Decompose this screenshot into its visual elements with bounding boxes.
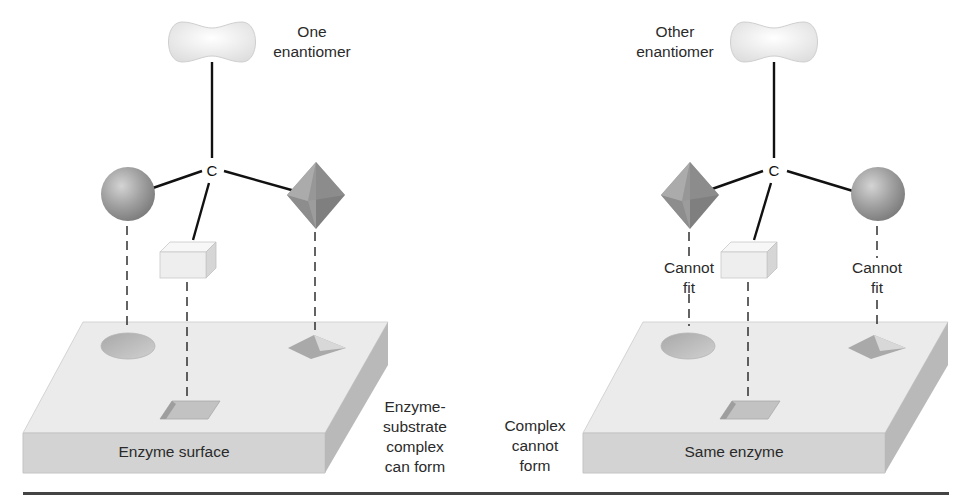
- enantiomer-diagram: [0, 0, 969, 500]
- complex-cannot-form-label: Complex cannot form: [495, 416, 575, 476]
- left-panel: [23, 22, 388, 473]
- box-substituent: [160, 242, 216, 278]
- cloud-substituent: [731, 22, 818, 62]
- cannot-fit-label-right: Cannot fit: [842, 258, 912, 298]
- octahedron-substituent: [661, 162, 719, 229]
- same-enzyme-label: Same enzyme: [583, 442, 885, 462]
- cannot-fit-label-left: Cannot fit: [654, 258, 724, 298]
- octahedron-substituent: [287, 162, 345, 229]
- enzyme-surface-label: Enzyme surface: [23, 442, 325, 462]
- complex-can-form-label: Enzyme- substrate complex can form: [365, 397, 465, 477]
- right-panel: [583, 22, 948, 473]
- sphere-substituent: [101, 167, 155, 221]
- bonds: [150, 62, 295, 240]
- one-enantiomer-label: One enantiomer: [262, 22, 362, 62]
- chiral-carbon-label: C: [204, 163, 220, 179]
- bonds: [712, 62, 853, 240]
- chiral-carbon-label: C: [766, 163, 782, 179]
- cloud-substituent: [169, 22, 256, 62]
- sphere-substituent: [851, 167, 905, 221]
- bottom-rule: [23, 492, 949, 495]
- box-substituent: [721, 242, 777, 278]
- other-enantiomer-label: Other enantiomer: [625, 22, 725, 62]
